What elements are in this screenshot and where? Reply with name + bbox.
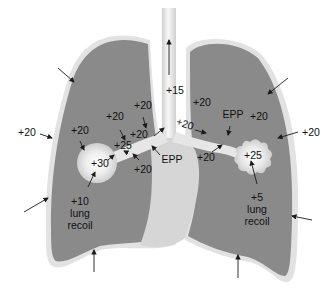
left-airway-pressure-label: +20	[130, 129, 148, 140]
right-outside-pressure-label: +20	[302, 127, 320, 138]
trachea-pressure-label: +15	[166, 85, 184, 96]
lung-pressure-diagram: +15 +20 +20 +20 +20 +20 +20 +25 +20 +30 …	[0, 0, 332, 296]
right-epp-label: EPP	[222, 109, 243, 120]
right-airway-below-pressure-label: +20	[197, 152, 215, 163]
right-lung-recoil-label: +5 lung recoil	[244, 191, 269, 227]
left-alveolus-pressure-label: +30	[91, 158, 109, 169]
right-alveolus-pressure-label: +25	[244, 150, 262, 161]
left-tissue-pressure-label-1: +20	[71, 125, 89, 136]
lung-illustration	[0, 0, 332, 296]
left-tissue-pressure-label-2: +20	[106, 111, 124, 122]
right-tissue-pressure-label: +20	[193, 97, 211, 108]
right-tissue-pressure-label-2: +20	[250, 111, 268, 122]
left-lung-recoil-label: +10 lung recoil	[67, 195, 92, 231]
left-airway-25-label: +25	[114, 140, 132, 151]
left-airway-below-pressure-label: +20	[134, 164, 152, 175]
left-epp-label: EPP	[161, 154, 182, 165]
left-outside-pressure-label: +20	[18, 127, 36, 138]
left-tissue-pressure-label-3: +20	[134, 100, 152, 111]
